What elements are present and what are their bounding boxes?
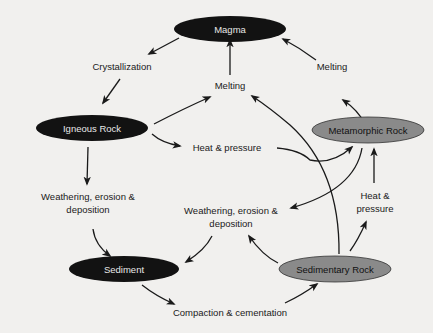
label-melting-center: Melting bbox=[215, 80, 246, 91]
edge-igneous-to-melting bbox=[154, 97, 210, 124]
node-sediment: Sediment bbox=[69, 256, 179, 282]
edge-sedimentary-to-melting bbox=[252, 96, 339, 254]
edge-weathering-center-to-sediment bbox=[186, 236, 212, 262]
label-heat-pressure-right-1: Heat & bbox=[360, 190, 390, 201]
rock-cycle-diagram: Magma Igneous Rock Metamorphic Rock Sedi… bbox=[0, 0, 433, 333]
node-igneous-rock: Igneous Rock bbox=[36, 115, 148, 141]
edge-weathering-to-sediment bbox=[93, 229, 110, 256]
edge-magma-to-crystallization bbox=[149, 38, 179, 54]
node-igneous-label: Igneous Rock bbox=[63, 123, 121, 134]
label-heat-pressure-left: Heat & pressure bbox=[193, 142, 262, 153]
node-metamorphic-rock: Metamorphic Rock bbox=[312, 117, 424, 143]
node-magma: Magma bbox=[174, 16, 286, 42]
label-weathering-left-2: deposition bbox=[66, 204, 109, 215]
edge-sedimentary-to-weathering-center bbox=[249, 236, 278, 263]
label-compaction: Compaction & cementation bbox=[173, 307, 287, 318]
label-crystallization: Crystallization bbox=[92, 61, 151, 72]
label-weathering-center-1: Weathering, erosion & bbox=[184, 205, 278, 216]
node-metamorphic-label: Metamorphic Rock bbox=[328, 125, 407, 136]
edge-crystallization-to-igneous bbox=[103, 79, 120, 103]
edge-compaction-to-sedimentary bbox=[285, 284, 317, 303]
edge-sediment-to-compaction bbox=[142, 285, 174, 304]
label-weathering-left-1: Weathering, erosion & bbox=[41, 191, 135, 202]
edge-melting-right-to-magma bbox=[283, 39, 316, 60]
node-sedimentary-rock: Sedimentary Rock bbox=[279, 256, 391, 282]
edge-igneous-to-heat-pressure bbox=[152, 134, 180, 146]
label-heat-pressure-right-2: pressure bbox=[357, 203, 394, 214]
label-melting-right: Melting bbox=[317, 61, 348, 72]
node-sedimentary-label: Sedimentary Rock bbox=[296, 264, 374, 275]
node-magma-label: Magma bbox=[214, 24, 246, 35]
edge-sedimentary-to-heat-pressure bbox=[350, 222, 366, 251]
label-weathering-center-2: deposition bbox=[209, 218, 252, 229]
edge-igneous-to-weathering bbox=[87, 147, 88, 184]
node-sediment-label: Sediment bbox=[104, 264, 144, 275]
